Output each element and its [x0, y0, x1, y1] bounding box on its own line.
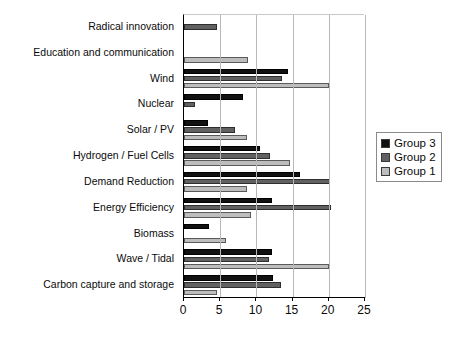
- gridline-5: [220, 15, 221, 298]
- legend-label: Group 2: [394, 151, 436, 163]
- bar-row: [184, 247, 364, 273]
- legend-item: Group 1: [381, 164, 436, 178]
- category-label: Education and communication: [33, 40, 174, 66]
- category-label: Radical innovation: [88, 14, 174, 40]
- bar-row: [184, 67, 364, 93]
- bar-group-1: [184, 135, 247, 140]
- x-tick-label-20: 20: [321, 303, 334, 317]
- gridline-10: [256, 15, 257, 298]
- x-tick-label-10: 10: [249, 303, 262, 317]
- bar-group-1: [184, 212, 251, 217]
- bar-group-3: [184, 146, 260, 151]
- bar-group-2: [184, 282, 281, 287]
- bar-row: [184, 196, 364, 222]
- bar-row: [184, 170, 364, 196]
- category-label: Nuclear: [138, 91, 174, 117]
- bar-row: [184, 222, 364, 248]
- bar-group-2: [184, 24, 217, 29]
- x-tick-label-0: 0: [180, 303, 187, 317]
- plot-area: [183, 14, 364, 298]
- x-tick-5: [219, 297, 220, 301]
- x-tick-0: [183, 297, 184, 301]
- bar-group-2: [184, 102, 195, 107]
- category-label: Demand Reduction: [84, 169, 174, 195]
- category-label: Energy Efficiency: [93, 195, 174, 221]
- gridline-15: [293, 15, 294, 298]
- category-label: Hydrogen / Fuel Cells: [73, 143, 174, 169]
- bar-row: [184, 118, 364, 144]
- bar-group-3: [184, 249, 272, 254]
- chart-legend: Group 3Group 2Group 1: [376, 132, 442, 182]
- bar-row: [184, 41, 364, 67]
- x-axis-line: [183, 297, 365, 298]
- bar-group-3: [184, 275, 273, 280]
- category-label: Wind: [150, 66, 174, 92]
- bar-row: [184, 92, 364, 118]
- bar-group-2: [184, 127, 235, 132]
- x-tick-label-15: 15: [285, 303, 298, 317]
- category-label: Carbon capture and storage: [43, 272, 174, 298]
- legend-swatch-icon: [381, 139, 390, 148]
- category-label: Wave / Tidal: [117, 246, 174, 272]
- bar-rows: [184, 15, 364, 298]
- bar-row: [184, 15, 364, 41]
- bar-group-3: [184, 224, 209, 229]
- bar-group-1: [184, 186, 247, 191]
- legend-item: Group 3: [381, 136, 436, 150]
- bar-group-2: [184, 205, 331, 210]
- category-axis-labels: Radical innovationEducation and communic…: [0, 14, 179, 298]
- bar-group-1: [184, 57, 248, 62]
- legend-swatch-icon: [381, 167, 390, 176]
- bar-row: [184, 273, 364, 299]
- legend-label: Group 1: [394, 165, 436, 177]
- bar-group-3: [184, 69, 288, 74]
- legend-item: Group 2: [381, 150, 436, 164]
- bar-row: [184, 144, 364, 170]
- gridline-25: [365, 15, 366, 298]
- x-tick-15: [292, 297, 293, 301]
- x-tick-label-25: 25: [357, 303, 370, 317]
- bar-group-1: [184, 160, 290, 165]
- gridline-20: [329, 15, 330, 298]
- x-tick-10: [255, 297, 256, 301]
- bar-group-3: [184, 120, 208, 125]
- x-tick-label-5: 5: [216, 303, 223, 317]
- legend-label: Group 3: [394, 137, 436, 149]
- category-label: Solar / PV: [127, 117, 174, 143]
- x-tick-20: [328, 297, 329, 301]
- bar-chart: Radical innovationEducation and communic…: [0, 0, 469, 341]
- bar-group-1: [184, 290, 217, 295]
- category-label: Biomass: [134, 221, 174, 247]
- bar-group-3: [184, 198, 272, 203]
- x-tick-25: [364, 297, 365, 301]
- bar-group-3: [184, 94, 243, 99]
- bar-group-3: [184, 172, 300, 177]
- legend-swatch-icon: [381, 153, 390, 162]
- bar-group-2: [184, 76, 282, 81]
